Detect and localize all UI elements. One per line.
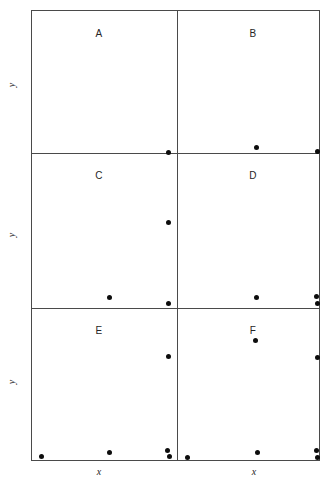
data-point-e-2	[107, 450, 112, 455]
axis-label-x-1: x	[252, 466, 256, 477]
axis-label-y-0: y	[6, 83, 17, 87]
axis-label-x-0: x	[97, 466, 101, 477]
panel-label-c: C	[95, 170, 102, 181]
panel-label-a: A	[96, 28, 103, 39]
panel-divider-horizontal-1	[32, 308, 319, 309]
data-point-f-2	[185, 455, 190, 460]
data-point-f-4	[314, 448, 319, 453]
scatter-panel-figure: ABCDEF yyyxx	[0, 0, 329, 484]
data-point-f-3	[255, 450, 260, 455]
data-point-e-1	[39, 454, 44, 459]
data-point-c-0	[166, 220, 171, 225]
data-point-d-1	[314, 294, 319, 299]
axis-label-y-1: y	[6, 233, 17, 237]
panel-label-b: B	[250, 28, 257, 39]
panel-label-f: F	[250, 325, 256, 336]
data-point-a-0	[166, 150, 171, 155]
panel-divider-horizontal-0	[32, 153, 319, 154]
panel-grid-frame	[31, 10, 320, 461]
data-point-e-4	[167, 454, 172, 459]
data-point-d-2	[315, 301, 320, 306]
data-point-f-1	[315, 355, 320, 360]
data-point-f-5	[315, 455, 320, 460]
panel-label-e: E	[96, 325, 103, 336]
data-point-b-1	[315, 149, 320, 154]
data-point-f-0	[253, 338, 258, 343]
panel-label-d: D	[249, 170, 256, 181]
data-point-c-1	[107, 295, 112, 300]
data-point-c-2	[166, 301, 171, 306]
data-point-b-0	[254, 145, 259, 150]
data-point-d-0	[254, 295, 259, 300]
data-point-e-3	[165, 448, 170, 453]
data-point-e-0	[166, 354, 171, 359]
panel-divider-vertical-0	[177, 11, 178, 460]
axis-label-y-2: y	[6, 380, 17, 384]
